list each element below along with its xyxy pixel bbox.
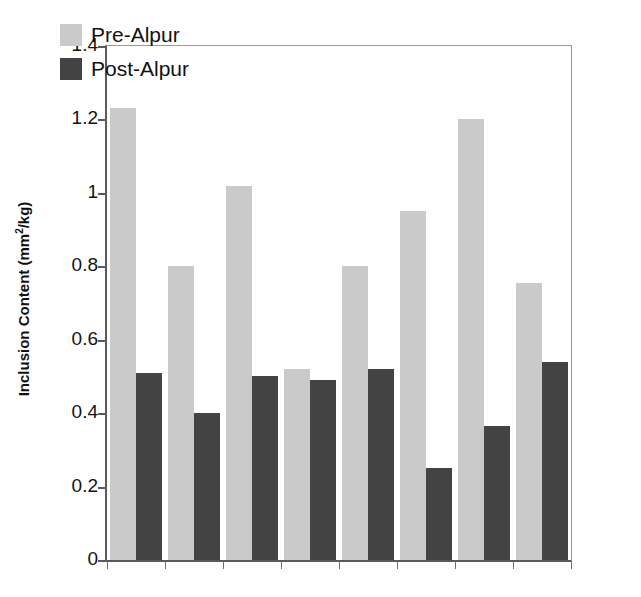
bar-pre-alpur [458, 119, 484, 560]
bar-pre-alpur [168, 266, 194, 560]
bar-post-alpur [484, 426, 510, 560]
y-axis-tickmark [98, 560, 107, 562]
x-axis-tickmark [223, 561, 224, 569]
legend-swatch-icon [60, 24, 82, 46]
y-axis-tick-label: 0.2 [50, 475, 98, 497]
x-axis-tickmark [339, 561, 340, 569]
y-axis-tickmark [98, 487, 107, 489]
y-axis-tickmark [98, 119, 107, 121]
bar-post-alpur [310, 380, 336, 560]
y-axis-title-superscript: 2 [14, 228, 25, 234]
y-axis-tick-labels: 00.20.40.60.811.21.4 [46, 0, 98, 597]
y-axis-tick-label: 0 [50, 548, 98, 570]
y-axis-tick-label: 0.4 [50, 401, 98, 423]
y-axis-title-suffix: /kg) [15, 201, 32, 228]
bar-series-group [107, 46, 571, 560]
y-axis-tickmark [98, 266, 107, 268]
y-axis-title-prefix: Inclusion Content (mm [15, 233, 32, 396]
legend-swatch-icon [60, 58, 82, 80]
y-axis-tickmark [98, 413, 107, 415]
legend-item: Pre-Alpur [60, 18, 189, 52]
y-axis-tickmark [98, 340, 107, 342]
legend-item-label: Pre-Alpur [91, 23, 180, 47]
x-axis-tickmark [397, 561, 398, 569]
bar-pre-alpur [400, 211, 426, 560]
chart-figure: Inclusion Content (mm2/kg) 00.20.40.60.8… [0, 0, 641, 597]
x-axis-tickmark [165, 561, 166, 569]
plot-area [105, 45, 572, 562]
x-axis-tickmark [281, 561, 282, 569]
bar-post-alpur [542, 362, 568, 560]
x-axis-tickmark [513, 561, 514, 569]
x-axis-tickmark [107, 561, 108, 569]
legend-item-label: Post-Alpur [91, 57, 189, 81]
bar-pre-alpur [110, 108, 136, 560]
y-axis-tickmark [98, 193, 107, 195]
bar-post-alpur [194, 413, 220, 560]
bar-post-alpur [252, 376, 278, 560]
y-axis-tick-label: 0.8 [50, 254, 98, 276]
bar-pre-alpur [284, 369, 310, 560]
y-axis-tick-label: 1 [50, 181, 98, 203]
bar-pre-alpur [342, 266, 368, 560]
bar-pre-alpur [516, 283, 542, 560]
x-axis-tickmark [571, 561, 572, 569]
y-axis-tick-label: 1.2 [50, 107, 98, 129]
legend-item: Post-Alpur [60, 52, 189, 86]
bar-post-alpur [426, 468, 452, 560]
bar-pre-alpur [226, 186, 252, 560]
x-axis-tickmark [455, 561, 456, 569]
bar-post-alpur [368, 369, 394, 560]
y-axis-tick-label: 0.6 [50, 328, 98, 350]
bar-post-alpur [136, 373, 162, 560]
chart-legend: Pre-AlpurPost-Alpur [60, 18, 189, 86]
y-axis-title-container: Inclusion Content (mm2/kg) [0, 0, 46, 597]
y-axis-title: Inclusion Content (mm2/kg) [15, 201, 32, 396]
